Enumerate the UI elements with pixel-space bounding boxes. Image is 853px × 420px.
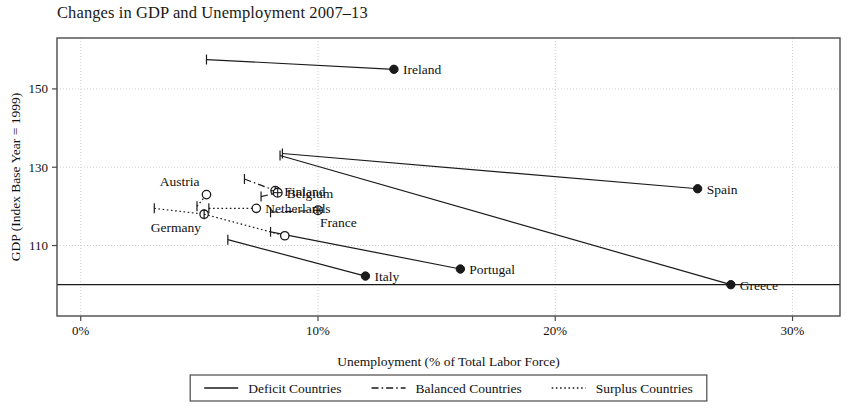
data-point-spain[interactable]	[282, 149, 701, 193]
chart-figure: Changes in GDP and Unemployment 2007–13 …	[0, 0, 853, 420]
marker-filled-circle[interactable]	[693, 185, 701, 193]
legend-label: Surplus Countries	[596, 381, 693, 396]
label-germany: Germany	[151, 220, 201, 235]
label-netherlands: Netherlands	[265, 201, 330, 216]
x-tick-label: 10%	[306, 323, 330, 338]
x-tick-label: 30%	[781, 323, 805, 338]
marker-filled-circle[interactable]	[390, 65, 398, 73]
y-tick-label: 110	[29, 238, 48, 253]
trend-line	[228, 240, 366, 276]
label-france: France	[320, 215, 357, 230]
data-series[interactable]	[154, 55, 735, 289]
legend-label: Deficit Countries	[248, 381, 341, 396]
label-portugal: Portugal	[469, 262, 515, 277]
axis-titles: Unemployment (% of Total Labor Force)GDP…	[8, 93, 560, 369]
chart-legend[interactable]: Deficit CountriesBalanced CountriesSurpl…	[190, 375, 707, 401]
data-point-ireland[interactable]	[206, 55, 398, 74]
trend-line	[282, 154, 697, 189]
trend-line	[271, 232, 461, 269]
x-axis-title: Unemployment (% of Total Labor Force)	[337, 354, 560, 369]
x-tick-label: 20%	[543, 323, 567, 338]
legend-label: Balanced Countries	[416, 381, 522, 396]
label-belgium: Belgium	[287, 186, 334, 201]
label-greece: Greece	[740, 278, 778, 293]
marker-open-circle[interactable]	[252, 204, 260, 212]
y-axis-title: GDP (Index Base Year = 1999)	[8, 93, 23, 261]
y-tick-label: 150	[29, 81, 49, 96]
x-tick-label: 0%	[72, 323, 90, 338]
y-tick-label: 130	[29, 160, 49, 175]
data-point-germany[interactable]	[154, 203, 208, 218]
trend-line	[206, 60, 393, 70]
label-italy: Italy	[374, 269, 399, 284]
chart-canvas: 0%10%20%30%110130150 IrelandSpainGreeceP…	[0, 0, 853, 420]
data-point-portugal[interactable]	[271, 227, 465, 273]
marker-filled-circle[interactable]	[456, 265, 464, 273]
axis-ticks: 0%10%20%30%110130150	[29, 81, 805, 338]
marker-filled-circle[interactable]	[727, 280, 735, 288]
marker-open-circle[interactable]	[281, 232, 289, 240]
label-austria: Austria	[160, 174, 200, 189]
marker-filled-circle[interactable]	[361, 272, 369, 280]
label-spain: Spain	[707, 182, 738, 197]
data-point-italy[interactable]	[228, 235, 370, 281]
label-ireland: Ireland	[403, 62, 441, 77]
data-point-netherlands[interactable]	[209, 203, 261, 213]
marker-open-circle[interactable]	[202, 190, 210, 198]
